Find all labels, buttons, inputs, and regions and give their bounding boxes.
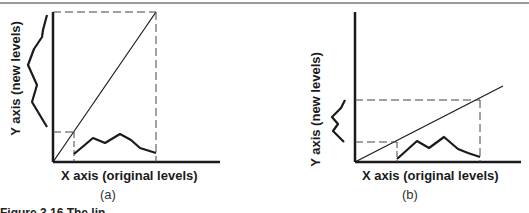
histogram-new-b: [332, 100, 345, 142]
x-axis-label-b: X axis (original levels): [362, 168, 499, 183]
y-axis-label-b: Y axis (new levels): [308, 50, 323, 170]
histogram-original-a: [74, 134, 156, 154]
histogram-new-a: [28, 15, 47, 127]
histogram-original-b: [397, 137, 480, 159]
panel-label-a: (a): [100, 187, 116, 202]
panel-b: [332, 12, 521, 162]
figure-caption: Figure 3.16 The lin...: [0, 206, 115, 213]
x-axis-label-a: X axis (original levels): [61, 168, 198, 183]
y-axis-label-a: Y axis (new levels): [8, 19, 23, 139]
mapping-line-a: [53, 12, 156, 162]
panel-label-b: (b): [402, 187, 418, 202]
mapping-line-b: [355, 86, 503, 162]
panel-a: [28, 12, 220, 162]
